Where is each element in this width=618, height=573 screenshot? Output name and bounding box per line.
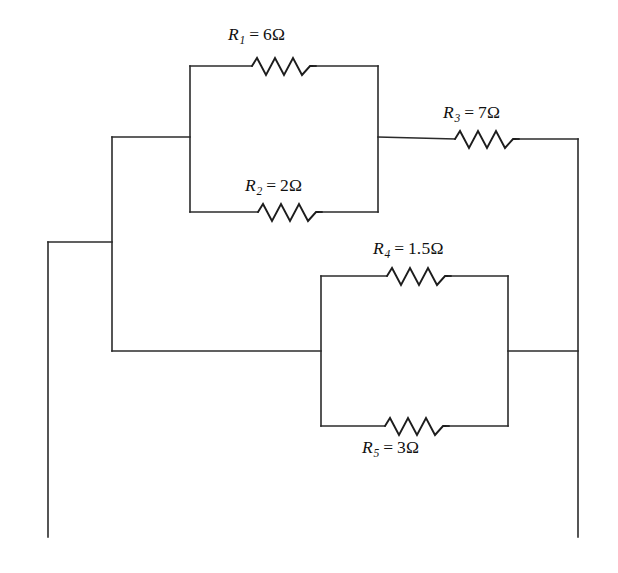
resistor-r4-symbol (387, 268, 451, 285)
resistor-r1-symbol (252, 58, 316, 75)
resistor-r2-symbol (258, 204, 322, 221)
resistor-r3-symbol (455, 131, 519, 148)
resistor-label-r2-subscript: 2 (256, 185, 262, 197)
resistor-label-r4-value: 1.5 (408, 238, 430, 258)
resistor-label-r1: R1=6Ω (228, 24, 285, 45)
resistor-r5-symbol (385, 418, 449, 435)
resistor-label-r2-value: 2 (280, 175, 289, 195)
resistor-label-r5-symbol: R (362, 437, 373, 457)
resistor-label-r5-unit: Ω (406, 437, 419, 457)
resistor-label-r5-subscript: 5 (373, 447, 379, 459)
wire-upper-box-to-r3 (378, 137, 455, 139)
resistor-label-r4-unit: Ω (430, 238, 443, 258)
circuit-diagram: R1=6Ω R2=2Ω R3=7Ω R4=1.5Ω R5=3Ω (0, 0, 618, 573)
resistor-label-r5: R5=3Ω (362, 437, 419, 458)
resistor-label-r4: R4=1.5Ω (373, 238, 444, 259)
resistor-label-r1-symbol: R (228, 24, 239, 44)
resistor-label-r1-equals: = (245, 24, 263, 44)
resistor-label-r2-symbol: R (245, 175, 256, 195)
resistor-label-r3-value: 7 (478, 102, 487, 122)
resistor-label-r3: R3=7Ω (443, 102, 500, 123)
resistor-label-r1-unit: Ω (272, 24, 285, 44)
resistor-label-r2-equals: = (262, 175, 280, 195)
resistor-label-r2: R2=2Ω (245, 175, 302, 196)
resistor-label-r3-subscript: 3 (454, 112, 460, 124)
resistor-label-r3-equals: = (460, 102, 478, 122)
resistor-label-r2-unit: Ω (289, 175, 302, 195)
resistor-label-r3-symbol: R (443, 102, 454, 122)
resistor-label-r5-value: 3 (397, 437, 406, 457)
resistor-label-r4-symbol: R (373, 238, 384, 258)
resistor-label-r4-equals: = (390, 238, 408, 258)
resistor-label-r4-subscript: 4 (384, 248, 390, 260)
circuit-schematic-svg (0, 0, 618, 573)
resistor-label-r1-subscript: 1 (239, 34, 245, 46)
resistor-label-r3-unit: Ω (487, 102, 500, 122)
resistor-label-r5-equals: = (379, 437, 397, 457)
resistor-label-r1-value: 6 (263, 24, 272, 44)
